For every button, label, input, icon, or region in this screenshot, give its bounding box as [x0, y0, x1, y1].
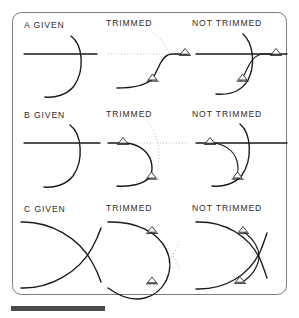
caption-a-trimmed: TRIMMED	[106, 18, 152, 28]
c-not-trimmed-marker-upper	[237, 227, 249, 234]
caption-a-not-trimmed: NOT TRIMMED	[192, 18, 262, 28]
c-trimmed-fillet	[166, 249, 170, 281]
row-a: A GIVEN TRIMMED NOT TRIMMED	[24, 18, 287, 97]
b-trimmed-ghost-arc	[148, 122, 159, 166]
b-not-trimmed-marker-upper	[204, 138, 216, 145]
caption-c-given: C GIVEN	[24, 204, 66, 214]
panel-b-trimmed	[108, 122, 189, 186]
caption-c-trimmed: TRIMMED	[106, 203, 152, 213]
row-c: C GIVEN TRIMMED NOT TRIMMED	[21, 203, 267, 299]
panel-c-given	[21, 222, 101, 288]
b-trimmed-arc-remainder	[117, 177, 150, 186]
panel-a-not-trimmed	[196, 34, 287, 94]
a-trimmed-marker-upper	[179, 49, 191, 56]
row-b: B GIVEN TRIMMED NOT TRIMMED	[24, 109, 287, 187]
caption-c-not-trimmed: NOT TRIMMED	[192, 203, 262, 213]
a-not-trimmed-arc	[216, 34, 253, 94]
a-not-trimmed-fillet	[241, 54, 278, 80]
a-not-trimmed-marker-lower	[237, 74, 249, 81]
a-trimmed-ghost-arc	[153, 32, 170, 55]
technical-diagram: A GIVEN TRIMMED NOT TRIMMED	[0, 0, 299, 318]
diagram-frame	[13, 13, 287, 295]
c-trimmed-marker-lower	[146, 277, 158, 284]
b-trimmed-fillet	[124, 143, 152, 177]
figure-root: A GIVEN TRIMMED NOT TRIMMED	[0, 0, 299, 318]
a-trimmed-marker-lower	[147, 74, 159, 81]
panel-b-given	[24, 125, 100, 187]
c-not-trimmed-marker-lower	[234, 277, 246, 284]
c-not-trimmed-arc-lower	[196, 233, 267, 289]
bottom-rule-bar	[11, 306, 105, 311]
panel-a-given	[24, 36, 97, 97]
caption-b-not-trimmed: NOT TRIMMED	[192, 109, 262, 119]
panel-c-trimmed	[108, 222, 180, 299]
a-given-arc	[45, 36, 81, 97]
caption-a-given: A GIVEN	[24, 20, 65, 30]
b-trimmed-marker-lower	[146, 172, 158, 179]
panel-a-trimmed	[108, 32, 191, 88]
a-trimmed-fillet	[151, 54, 187, 80]
b-not-trimmed-arc	[212, 124, 249, 186]
b-given-arc	[44, 125, 80, 187]
b-trimmed-marker-upper	[117, 138, 129, 145]
panel-b-not-trimmed	[196, 124, 287, 186]
panel-c-not-trimmed	[196, 222, 267, 289]
caption-b-trimmed: TRIMMED	[106, 109, 152, 119]
c-not-trimmed-arc-upper	[196, 222, 267, 278]
a-trimmed-arc-remainder	[117, 80, 151, 88]
caption-b-given: B GIVEN	[24, 110, 65, 120]
a-not-trimmed-marker-upper	[270, 49, 282, 56]
b-not-trimmed-fillet	[211, 143, 238, 177]
c-trimmed-arc-upper	[108, 222, 166, 249]
